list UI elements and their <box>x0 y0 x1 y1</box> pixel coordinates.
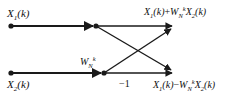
input-x2-argument: (k) <box>17 78 29 90</box>
twiddle-factor-label: WNk <box>80 57 96 67</box>
output-sum-x2-argument: (k) <box>195 6 206 17</box>
output-label-difference: X1(k)−WNkX2(k) <box>153 80 215 90</box>
node-branch-bottom <box>101 70 106 75</box>
twiddle-superscript: k <box>93 55 96 62</box>
output-sum-w-subscript: N <box>178 12 182 19</box>
output-label-sum: X1(k)+WNkX2(k) <box>144 7 206 17</box>
node-input-top <box>8 23 13 28</box>
inverter-label: −1 <box>119 79 130 89</box>
output-diff-w-subscript: N <box>187 85 191 92</box>
output-diff-x2-argument: (k) <box>204 79 215 90</box>
input-x2-base: X <box>7 78 14 90</box>
input-label-x2: X2(k) <box>7 79 30 90</box>
edge-top-cross-to-bottom-output <box>96 26 171 70</box>
input-label-x1: X1(k) <box>7 8 30 19</box>
twiddle-subscript: N <box>88 62 92 69</box>
input-x1-argument: (k) <box>17 7 29 19</box>
output-diff-x1-argument: (k) <box>162 79 173 90</box>
butterfly-diagram-figure: X1(k) X2(k) WNk −1 X1(k)+WNkX2(k) X1(k)−… <box>0 0 229 100</box>
node-input-bottom <box>8 70 13 75</box>
edge-bottom-cross-to-top-output <box>104 29 171 73</box>
output-sum-x1-argument: (k) <box>153 6 164 17</box>
input-x1-base: X <box>7 7 14 19</box>
node-branch-top <box>93 23 98 28</box>
